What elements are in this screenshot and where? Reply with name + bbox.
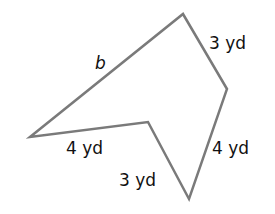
side-label-top-right: 3 yd [209, 33, 246, 53]
side-label-bottom-inner: 3 yd [119, 170, 156, 190]
side-label-b: b [95, 53, 106, 73]
polygon-diagram: b 3 yd 4 yd 3 yd 4 yd [0, 0, 275, 214]
side-label-right: 4 yd [212, 138, 249, 158]
side-label-bottom-left: 4 yd [66, 138, 103, 158]
